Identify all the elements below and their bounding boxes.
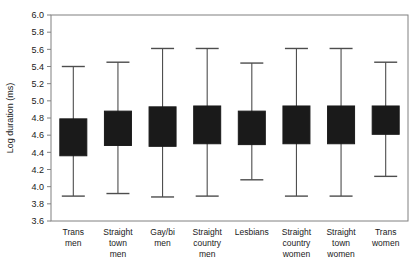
box-series xyxy=(60,48,399,196)
y-tick-label: 5.4 xyxy=(31,62,44,72)
box-plot-item xyxy=(238,63,265,180)
y-axis-ticks: 6.05.85.65.45.25.04.84.64.44.24.03.83.6 xyxy=(31,10,51,226)
y-tick-label: 3.6 xyxy=(31,216,44,226)
y-tick-label: 5.2 xyxy=(31,79,44,89)
y-axis-label: Log duration (ms) xyxy=(5,83,15,154)
x-category-label: Lesbians xyxy=(235,227,269,237)
box-rect xyxy=(60,119,87,156)
box-rect xyxy=(372,106,399,134)
x-category-label: men xyxy=(199,249,216,259)
y-tick-label: 3.8 xyxy=(31,199,44,209)
box-rect xyxy=(238,111,265,144)
x-category-label: Straight xyxy=(326,227,356,237)
y-axis-title: Log duration (ms) xyxy=(5,83,15,154)
box-rect xyxy=(104,111,131,145)
y-tick-label: 4.4 xyxy=(31,148,44,158)
y-tick-label: 5.0 xyxy=(31,96,44,106)
boxplot-chart: Log duration (ms) 6.05.85.65.45.25.04.84… xyxy=(0,0,419,267)
y-tick-label: 4.6 xyxy=(31,130,44,140)
x-category-label: Trans xyxy=(63,227,84,237)
box-plot-item xyxy=(328,48,355,196)
y-tick-label: 4.0 xyxy=(31,182,44,192)
x-category-label: Trans xyxy=(375,227,396,237)
box-rect xyxy=(149,107,176,146)
x-category-label: country xyxy=(193,238,222,248)
y-tick-label: 5.8 xyxy=(31,27,44,37)
box-plot-item xyxy=(194,48,221,196)
x-category-label: country xyxy=(283,238,312,248)
x-axis-category-labels: TransmenStraighttownmenGay/bimenStraight… xyxy=(63,227,400,259)
box-rect xyxy=(283,106,310,144)
box-rect xyxy=(328,106,355,144)
y-tick-label: 4.8 xyxy=(31,113,44,123)
box-plot-item xyxy=(283,48,310,196)
x-category-label: women xyxy=(371,238,400,248)
x-category-label: town xyxy=(109,238,127,248)
x-category-label: Straight xyxy=(282,227,312,237)
x-category-label: Gay/bi xyxy=(150,227,175,237)
y-tick-label: 6.0 xyxy=(31,10,44,20)
x-category-label: town xyxy=(332,238,350,248)
x-category-label: men xyxy=(65,238,82,248)
box-plot-item xyxy=(104,62,131,193)
x-category-label: Straight xyxy=(193,227,223,237)
box-plot-item xyxy=(149,48,176,196)
x-category-label: men xyxy=(154,238,171,248)
box-plot-item xyxy=(60,67,87,197)
x-category-label: men xyxy=(110,249,127,259)
chart-screen: Log duration (ms) 6.05.85.65.45.25.04.84… xyxy=(0,0,419,267)
x-category-label: women xyxy=(282,249,311,259)
y-tick-label: 4.2 xyxy=(31,165,44,175)
y-tick-label: 5.6 xyxy=(31,45,44,55)
box-rect xyxy=(194,106,221,144)
x-category-label: Straight xyxy=(103,227,133,237)
box-plot-item xyxy=(372,62,399,176)
x-category-label: women xyxy=(326,249,355,259)
